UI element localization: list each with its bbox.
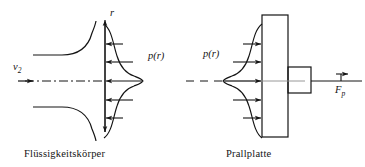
plate-mount-stub <box>288 67 311 93</box>
nozzle-wall-upper <box>33 21 96 55</box>
right-panel: p(r) Fp <box>186 15 362 138</box>
caption-right: Prallplatte <box>226 148 271 159</box>
pressure-label-left: p(r) <box>147 50 165 62</box>
force-label: Fp <box>334 84 345 98</box>
pressure-label-right: p(r) <box>202 48 220 60</box>
inlet-velocity-sub: 2 <box>18 66 22 75</box>
caption-left: Flüssigkeitskörper <box>24 148 105 159</box>
diagram-canvas: r v2 p(r) <box>0 0 365 167</box>
r-axis-label: r <box>110 7 115 18</box>
inlet-velocity-label: v2 <box>13 61 22 75</box>
nozzle-wall-lower <box>33 107 96 141</box>
left-panel: r v2 p(r) <box>13 7 165 141</box>
figure-root: r v2 p(r) <box>0 0 365 167</box>
force-label-sub: p <box>340 89 345 98</box>
impact-plate <box>262 15 288 137</box>
